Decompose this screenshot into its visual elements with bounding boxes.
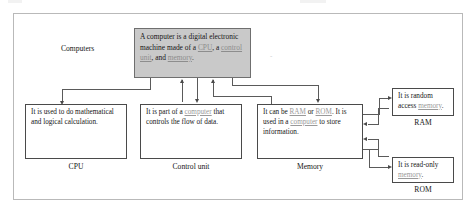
arrowhead-memory-to-main	[211, 79, 215, 83]
node-control-unit[interactable]: It is part of a computer that controls t…	[140, 104, 242, 159]
caption-cpu: CPU	[25, 162, 127, 171]
caption-control-unit: Control unit	[140, 162, 242, 171]
node-text: It can be RAM or ROM. It is used in a co…	[263, 108, 358, 138]
node-computers-definition[interactable]: A computer is a digital electronic machi…	[134, 28, 251, 78]
root-label: Computers	[61, 44, 94, 53]
inline-link[interactable]: ROM	[316, 108, 332, 116]
node-ram[interactable]: It is random access memory.	[392, 88, 454, 116]
caption-ram: RAM	[392, 118, 454, 127]
scan-artifact	[8, 0, 22, 3]
node-text: It is random access memory.	[398, 92, 449, 112]
connector-main-to-memory-drop	[318, 85, 319, 100]
connector-memory-to-rom-in	[369, 167, 389, 168]
inline-link[interactable]: memory	[168, 53, 192, 62]
scan-artifact	[300, 0, 326, 3]
connector-memory-to-rom-out	[363, 149, 379, 150]
diagram-canvas: Computers - A computer is a digital elec…	[0, 0, 476, 216]
connector-control-unit-to-main	[182, 80, 183, 102]
connector-memory-to-ram-rise	[379, 98, 380, 115]
connector-rom-to-memory-rise	[378, 139, 379, 157]
connector-main-to-cpu-stem	[150, 78, 151, 89]
inline-link[interactable]: memory	[418, 102, 442, 110]
connector-main-to-memory-horizontal	[232, 85, 318, 86]
node-memory[interactable]: It can be RAM or ROM. It is used in a co…	[257, 104, 363, 159]
arrowhead-ram-to-memory	[363, 122, 367, 126]
connector-memory-to-main-horizontal	[213, 96, 272, 97]
connector-main-to-cpu-horizontal	[62, 89, 151, 90]
connector-rom-to-memory-out	[378, 156, 389, 157]
node-rom[interactable]: It is read-only memory.	[392, 157, 454, 183]
connector-ram-to-memory-out	[378, 108, 389, 109]
connector-main-to-control-unit	[197, 78, 198, 100]
connector-rom-to-memory-in	[368, 139, 379, 140]
inline-link[interactable]: CPU	[198, 43, 212, 52]
connector-ram-to-memory-drop	[378, 108, 379, 124]
arrowhead-control-unit-to-main	[180, 79, 184, 83]
arrowhead-to-control-unit	[195, 99, 199, 103]
stray-dash-mark: -	[270, 52, 272, 60]
inline-link[interactable]: computer	[290, 118, 317, 126]
node-cpu[interactable]: It is used to do mathematical and logica…	[25, 104, 127, 159]
connector-memory-to-ram-out	[363, 114, 379, 115]
arrowhead-rom-to-memory	[363, 137, 367, 141]
inline-link[interactable]: RAM	[290, 108, 306, 116]
connector-memory-to-rom-drop	[369, 149, 370, 167]
inline-link[interactable]: computer	[185, 108, 212, 116]
arrowhead-to-memory	[316, 99, 320, 103]
node-text: A computer is a digital electronic machi…	[140, 32, 246, 64]
inline-link[interactable]: memory	[398, 171, 422, 179]
connector-ram-to-memory-in	[368, 124, 379, 125]
node-text: It is read-only memory.	[398, 161, 449, 181]
node-text: It is part of a computer that controls t…	[146, 108, 237, 128]
caption-rom: ROM	[392, 185, 454, 194]
connector-main-to-memory-stem	[232, 78, 233, 85]
caption-memory: Memory	[257, 162, 363, 171]
node-text: It is used to do mathematical and logica…	[31, 108, 122, 128]
